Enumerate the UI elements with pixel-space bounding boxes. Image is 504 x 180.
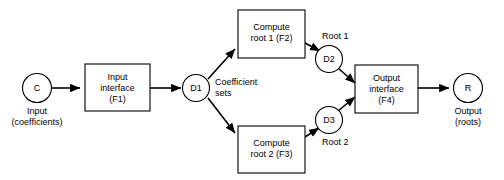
process-f4-line3: (F4) (378, 95, 395, 105)
process-f4-line1: Output (373, 73, 401, 83)
process-f1[interactable]: Input interface (F1) (85, 64, 150, 111)
process-f1-line1: Input (107, 72, 128, 82)
edge-f2-to-d2 (305, 43, 320, 51)
terminator-c[interactable]: C Input (coefficients) (12, 74, 63, 128)
edge-d3-to-f4 (338, 97, 355, 111)
process-f2-line2: root 1 (F2) (250, 33, 292, 43)
datastore-d3-label: D3 (323, 115, 335, 125)
process-f4-line2: interface (369, 84, 404, 94)
coefficient-sets-line1: Coefficient (215, 77, 258, 87)
edge-d2-to-f4 (338, 68, 355, 83)
datastore-d1-label: D1 (190, 83, 202, 93)
process-f1-line3: (F1) (109, 94, 126, 104)
coefficient-sets-line2: sets (215, 88, 232, 98)
edge-label-coefficient-sets: Coefficient sets (215, 77, 258, 98)
process-f2[interactable]: Compute root 1 (F2) (238, 10, 305, 58)
process-f3[interactable]: Compute root 2 (F3) (238, 126, 305, 173)
datastore-d2[interactable]: D2 (316, 46, 343, 73)
edge-label-root-2: Root 2 (322, 137, 349, 147)
dataflow-diagram: Input interface (F1) Compute root 1 (F2)… (0, 0, 504, 180)
terminator-r-caption-line1: Output (454, 106, 482, 116)
process-f4[interactable]: Output interface (F4) (355, 65, 418, 113)
process-f3-line1: Compute (253, 138, 290, 148)
datastore-d2-label: D2 (323, 54, 335, 64)
process-f1-line2: interface (100, 83, 135, 93)
edge-d1-to-f2 (208, 49, 235, 79)
terminator-c-caption-line1: Input (27, 106, 48, 116)
datastore-d3[interactable]: D3 (316, 107, 343, 134)
diagram-canvas: Input interface (F1) Compute root 1 (F2)… (0, 0, 504, 180)
edge-f3-to-d3 (305, 128, 319, 137)
datastore-d1[interactable]: D1 (183, 75, 210, 102)
process-f3-line2: root 2 (F3) (250, 149, 292, 159)
terminator-r[interactable]: R Output (roots) (454, 74, 483, 128)
edge-d1-to-f3 (208, 98, 235, 133)
terminator-c-label: C (34, 83, 41, 93)
terminator-r-label: R (465, 83, 472, 93)
edge-label-root-1: Root 1 (322, 31, 349, 41)
terminator-r-caption-line2: (roots) (455, 117, 481, 127)
terminator-c-caption-line2: (coefficients) (12, 117, 63, 127)
process-f2-line1: Compute (253, 22, 290, 32)
